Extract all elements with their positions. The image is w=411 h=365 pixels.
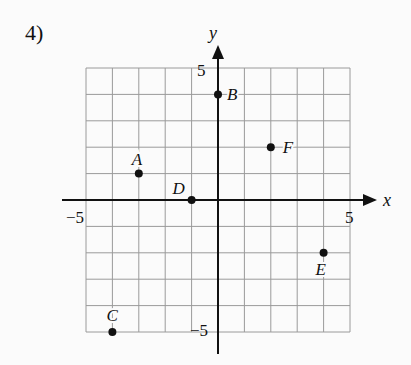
x-axis-label: x bbox=[382, 190, 391, 210]
y-min-tick-label: −5 bbox=[190, 321, 208, 340]
point-label-c: C bbox=[106, 306, 118, 325]
point-label-f: F bbox=[282, 138, 294, 157]
point-b bbox=[214, 90, 222, 98]
coordinate-plane: x y 5 −5 −5 5 ABCDEF bbox=[0, 0, 411, 365]
point-a bbox=[135, 170, 143, 178]
axes: x y 5 −5 −5 5 bbox=[62, 23, 391, 354]
y-max-tick-label: 5 bbox=[197, 61, 206, 80]
point-c bbox=[108, 328, 116, 336]
point-label-a: A bbox=[131, 150, 143, 169]
point-d bbox=[188, 196, 196, 204]
point-label-e: E bbox=[315, 260, 327, 279]
x-max-tick-label: 5 bbox=[345, 208, 354, 227]
y-axis-arrow-icon bbox=[212, 45, 224, 59]
x-min-tick-label: −5 bbox=[66, 208, 84, 227]
point-label-d: D bbox=[172, 179, 186, 198]
point-label-b: B bbox=[227, 85, 238, 104]
point-e bbox=[320, 249, 328, 257]
y-axis-label: y bbox=[207, 23, 217, 43]
x-axis-arrow-icon bbox=[363, 194, 377, 206]
point-f bbox=[267, 143, 275, 151]
